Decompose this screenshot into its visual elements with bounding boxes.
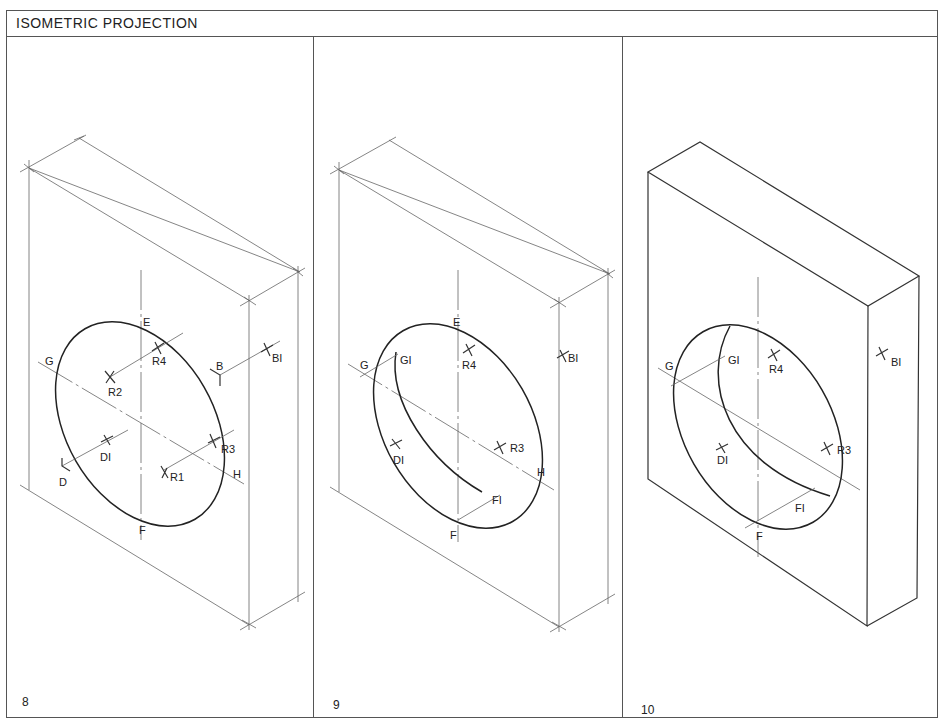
panel-10-number: 10 [641,703,654,717]
p8-top-right-depth [240,268,305,306]
p9-top-right-depth [550,270,615,308]
p9-label-D1: DI [393,454,404,466]
p9-label-F: F [450,529,457,541]
p10-mark-R4 [768,349,780,361]
p8-label-H: H [233,468,241,480]
p10-ellipse-back-arc [718,326,830,496]
p8-label-R4: R4 [152,355,166,367]
p8-tick [244,297,256,305]
p8-label-D1: DI [100,451,111,463]
p8-top-front-edge [29,168,300,272]
p10-block-outline [648,142,919,626]
panel-8-box-construction [20,135,305,630]
p10-label-B1: BI [891,356,901,368]
p9-label-R4: R4 [462,359,476,371]
panel-9-box-construction [330,137,615,632]
p9-top-front-edge [339,170,610,274]
p8-top-left-depth [20,135,86,172]
p9-label-G1: GI [400,354,412,366]
p9-label-B1: BI [568,352,578,364]
p10-mark-B1 [876,347,888,360]
p8-label-R2: R2 [108,386,122,398]
p8-label-B1: BI [272,352,282,364]
p8-ellipse-front [21,292,259,557]
p8-tick [74,136,84,140]
p8-label-D: D [59,476,67,488]
p10-side-face [867,276,919,626]
p8-line-D-D1 [62,430,128,466]
p10-label-G1: GI [728,354,740,366]
p9-mark-R4 [463,344,475,356]
p10-label-D1: DI [717,454,728,466]
p10-label-R4: R4 [769,363,783,375]
p8-mark-R4 [152,342,164,354]
p8-label-R1: R1 [170,471,184,483]
p8-label-B: B [216,360,223,372]
p9-top-back-edge [389,140,610,274]
panel-9-number: 9 [333,698,340,712]
p10-label-F1: FI [795,502,805,514]
p9-label-R3: R3 [510,442,524,454]
panel-10-drawing: F G GI FI R4 R3 DI BI [639,142,919,626]
p9-cross-marks [390,344,569,454]
p9-label-G: G [360,359,369,371]
p9-label-F1: FI [492,494,502,506]
p9-label-E: E [453,316,460,328]
p10-top-face [648,142,919,306]
isometric-drawings: E F G H R2 R4 R3 R1 DI D B BI [0,0,944,728]
p9-label-H: H [537,466,545,478]
panel-8-number: 8 [22,695,29,709]
p9-bottom-front-edge [330,487,559,627]
p10-mark-R3 [821,442,833,455]
p8-label-F: F [139,524,146,536]
p10-label-F: F [756,530,763,542]
p8-cross-marks [62,342,273,478]
p10-label-G: G [665,360,674,372]
p8-bottom-front-edge [20,485,249,625]
p8-front-top-edge [29,168,250,301]
panel-9-drawing: E F G GI FI H R4 R3 DI BI [330,137,615,632]
drawing-sheet: ISOMETRIC PROJECTION [0,0,944,728]
p8-mark-R1 [161,466,168,478]
p8-line-R2-R4 [110,333,183,377]
p8-label-R3: R3 [221,443,235,455]
panel-8-drawing: E F G H R2 R4 R3 R1 DI D B BI [20,135,305,630]
p8-label-G: G [45,355,54,367]
p9-mark-R3 [494,441,506,454]
p10-label-R3: R3 [837,444,851,456]
p9-top-left-depth [330,137,396,174]
p8-mark-R2 [105,371,115,383]
p10-mark-D1 [716,443,728,453]
p8-label-E: E [143,316,150,328]
p10-diagonal-centerline [658,368,860,490]
p9-front-top-edge [339,170,560,303]
p8-top-back-edge [79,138,300,272]
p9-tick [554,299,566,307]
p9-ellipse-back-arc [395,352,482,492]
p9-mark-D1 [390,439,402,449]
p8-mark-D [62,458,70,471]
